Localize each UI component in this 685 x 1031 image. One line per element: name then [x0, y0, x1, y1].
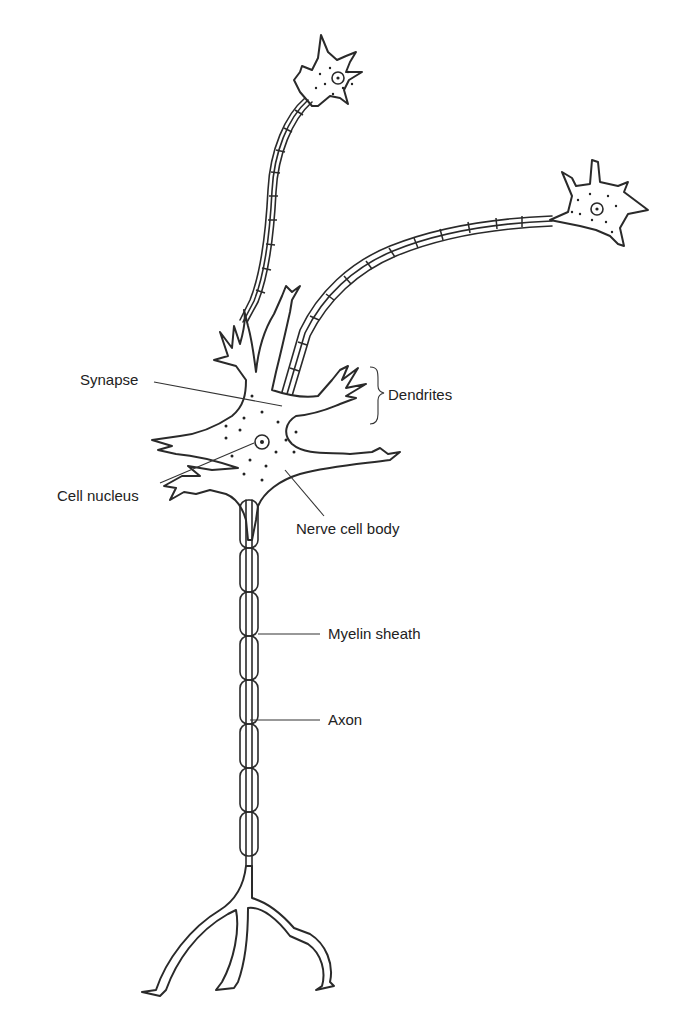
- label-cell-nucleus: Cell nucleus: [57, 487, 139, 504]
- label-dendrites: Dendrites: [388, 386, 452, 403]
- main-myelinated-axon: [240, 500, 258, 868]
- main-nerve-cell-body: [152, 286, 400, 540]
- upper-myelinated-axon: [240, 98, 312, 324]
- right-myelinated-axon: [282, 216, 552, 396]
- label-axon: Axon: [328, 711, 362, 728]
- right-neuron-body: [550, 160, 648, 246]
- label-nerve-cell-body: Nerve cell body: [296, 520, 399, 537]
- neuron-diagram: [0, 0, 685, 1031]
- label-synapse: Synapse: [80, 371, 138, 388]
- axon-terminals: [142, 866, 334, 996]
- dendrites-brace: [370, 367, 384, 424]
- upper-neuron-body: [294, 35, 362, 106]
- nerve-cell-body-leader-line: [285, 470, 324, 516]
- label-myelin-sheath: Myelin sheath: [328, 625, 421, 642]
